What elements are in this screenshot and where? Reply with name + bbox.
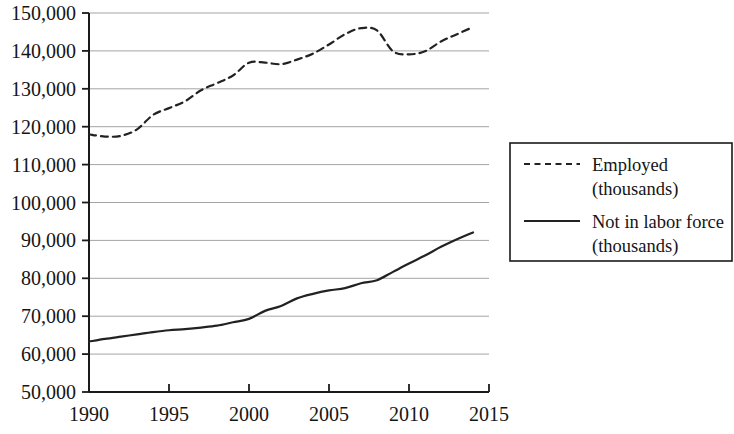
x-axis-tick-labels: 199019952000200520102015 — [69, 403, 509, 425]
legend: Employed (thousands) Not in labor force … — [510, 143, 732, 261]
x-tick-label: 2015 — [469, 403, 509, 425]
y-tick-label: 50,000 — [21, 381, 76, 403]
x-tick-label: 2000 — [229, 403, 269, 425]
chart-container: 50,00060,00070,00080,00090,000100,000110… — [0, 0, 734, 434]
legend-unit-not-in-labor-force: (thousands) — [592, 236, 678, 257]
y-tick-label: 90,000 — [21, 229, 76, 251]
y-tick-mark-group — [82, 13, 89, 392]
y-tick-label: 110,000 — [12, 154, 76, 176]
y-tick-label: 150,000 — [11, 2, 76, 24]
series-line-not-in-labor-force — [89, 232, 473, 341]
y-tick-label: 130,000 — [11, 78, 76, 100]
y-axis-tick-labels: 50,00060,00070,00080,00090,000100,000110… — [11, 2, 76, 403]
data-series-group — [89, 27, 473, 342]
y-tick-label: 70,000 — [21, 305, 76, 327]
x-tick-label: 2005 — [309, 403, 349, 425]
series-line-employed — [89, 27, 473, 137]
legend-unit-employed: (thousands) — [592, 179, 678, 200]
legend-label-not-in-labor-force: Not in labor force — [592, 212, 724, 232]
x-tick-label: 1990 — [69, 403, 109, 425]
y-tick-label: 100,000 — [11, 192, 76, 214]
line-chart: 50,00060,00070,00080,00090,000100,000110… — [0, 0, 734, 434]
x-tick-label: 1995 — [149, 403, 189, 425]
y-tick-label: 60,000 — [21, 343, 76, 365]
y-tick-label: 120,000 — [11, 116, 76, 138]
x-tick-label: 2010 — [389, 403, 429, 425]
y-tick-label: 140,000 — [11, 40, 76, 62]
x-tick-mark-group — [89, 384, 489, 392]
legend-label-employed: Employed — [592, 155, 669, 175]
y-tick-label: 80,000 — [21, 267, 76, 289]
